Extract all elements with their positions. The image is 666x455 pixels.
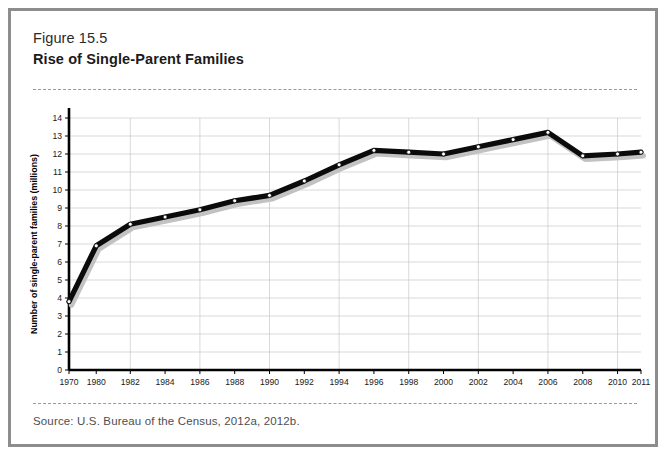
chart-svg: 01234567891011121314 1970198019821984198… bbox=[11, 93, 655, 393]
x-tick-label: 2010 bbox=[608, 377, 627, 387]
y-tick-label: 4 bbox=[57, 293, 62, 303]
page-title: Rise of Single-Parent Families bbox=[33, 49, 633, 69]
x-tick-label: 2000 bbox=[434, 377, 453, 387]
y-tick-label: 11 bbox=[53, 167, 62, 177]
x-tick-label: 1982 bbox=[121, 377, 140, 387]
figure-source: Source: U.S. Bureau of the Census, 2012a… bbox=[33, 415, 300, 427]
y-tick-label: 1 bbox=[57, 347, 62, 357]
horizontal-gridlines bbox=[69, 118, 641, 352]
x-tick-label: 2006 bbox=[538, 377, 557, 387]
x-tick-label: 1988 bbox=[225, 377, 244, 387]
data-point-marker bbox=[163, 215, 167, 219]
y-tick-label: 9 bbox=[57, 203, 62, 213]
data-point-marker bbox=[581, 154, 585, 158]
data-point-marker bbox=[476, 145, 480, 149]
x-tick-label: 1970 bbox=[59, 377, 78, 387]
x-axis-tick-labels: 1970198019821984198619881990199219941996… bbox=[59, 377, 650, 387]
x-tick-label: 2008 bbox=[573, 377, 592, 387]
y-tick-label: 12 bbox=[52, 149, 62, 159]
data-point-marker bbox=[94, 244, 98, 248]
y-tick-label: 14 bbox=[52, 113, 62, 123]
data-point-marker bbox=[198, 208, 202, 212]
figure-header: Figure 15.5 Rise of Single-Parent Famili… bbox=[33, 29, 633, 69]
data-point-marker bbox=[372, 148, 376, 152]
x-tick-label: 1996 bbox=[364, 377, 383, 387]
y-tick-label: 2 bbox=[57, 329, 62, 339]
y-tick-label: 7 bbox=[57, 239, 62, 249]
x-tick-label: 1984 bbox=[156, 377, 175, 387]
y-tick-label: 10 bbox=[52, 185, 62, 195]
y-tick-label: 3 bbox=[57, 311, 62, 321]
y-tick-label: 13 bbox=[52, 131, 62, 141]
data-point-marker bbox=[233, 199, 237, 203]
data-point-marker bbox=[67, 300, 71, 304]
y-axis-tick-labels: 01234567891011121314 bbox=[52, 113, 62, 375]
x-tick-label: 1990 bbox=[260, 377, 279, 387]
x-tick-label: 1980 bbox=[87, 377, 106, 387]
data-point-marker bbox=[616, 152, 620, 156]
figure-number: Figure 15.5 bbox=[33, 29, 633, 48]
data-point-marker bbox=[639, 150, 643, 154]
y-tick-label: 5 bbox=[57, 275, 62, 285]
y-tick-label: 8 bbox=[57, 221, 62, 231]
x-tick-label: 1994 bbox=[330, 377, 349, 387]
x-tick-label: 2004 bbox=[504, 377, 523, 387]
data-point-marker bbox=[268, 193, 272, 197]
data-point-marker bbox=[546, 130, 550, 134]
x-tick-label: 2002 bbox=[469, 377, 488, 387]
data-point-marker bbox=[442, 152, 446, 156]
x-tick-label: 2011 bbox=[632, 377, 651, 387]
data-point-marker bbox=[302, 179, 306, 183]
data-point-marker bbox=[511, 138, 515, 142]
divider-top bbox=[33, 89, 637, 90]
y-tick-label: 6 bbox=[57, 257, 62, 267]
y-tick-label: 0 bbox=[57, 365, 62, 375]
divider-bottom bbox=[33, 403, 637, 404]
data-point-marker bbox=[337, 163, 341, 167]
x-tick-label: 1992 bbox=[295, 377, 314, 387]
x-tick-label: 1986 bbox=[190, 377, 209, 387]
figure-inner: Figure 15.5 Rise of Single-Parent Famili… bbox=[11, 11, 655, 444]
line-chart: 01234567891011121314 1970198019821984198… bbox=[11, 93, 655, 393]
data-point-marker bbox=[128, 222, 132, 226]
y-axis-title: Number of single-parent families (millio… bbox=[29, 154, 39, 334]
series-line bbox=[69, 132, 641, 301]
x-tick-label: 1998 bbox=[399, 377, 418, 387]
data-point-marker bbox=[407, 150, 411, 154]
figure-card: Figure 15.5 Rise of Single-Parent Famili… bbox=[8, 8, 658, 447]
